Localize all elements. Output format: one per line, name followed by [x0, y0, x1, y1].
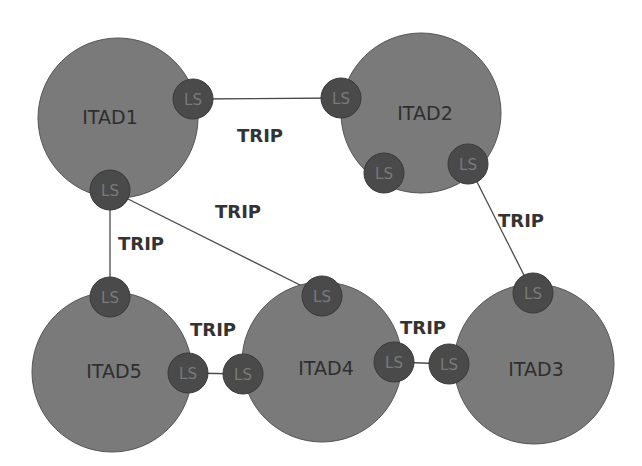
itad4-label: ITAD4: [298, 357, 353, 379]
trip-label-itad2-itad3: TRIP: [498, 210, 544, 231]
ls-node-itad4-right: LS: [374, 342, 414, 382]
ls-node-itad2-bottom-left: LS: [364, 153, 404, 193]
trip-label-itad1-itad4: TRIP: [215, 201, 261, 222]
ls-node-itad4-top: LS: [302, 276, 342, 316]
ls-label: LS: [440, 356, 458, 374]
ls-label: LS: [101, 289, 119, 307]
itad-trip-diagram: ITAD1 ITAD2 ITAD3 ITAD4 ITAD5 LS LS LS L…: [0, 0, 642, 466]
ls-label: LS: [234, 366, 252, 384]
ls-node-itad1-bottom: LS: [90, 170, 130, 210]
ls-label: LS: [332, 90, 350, 108]
ls-node-itad2-left: LS: [321, 78, 361, 118]
ls-label: LS: [375, 165, 393, 183]
itad5-label: ITAD5: [86, 360, 141, 382]
trip-label-itad4-itad3: TRIP: [400, 317, 446, 338]
itad1-label: ITAD1: [82, 106, 137, 128]
ls-label: LS: [385, 354, 403, 372]
ls-node-itad2-bottom-right: LS: [448, 144, 488, 184]
ls-node-itad1-right: LS: [173, 79, 213, 119]
ls-node-itad4-left: LS: [223, 354, 263, 394]
trip-label-itad5-itad4: TRIP: [190, 319, 236, 340]
trip-label-itad1-itad5: TRIP: [118, 233, 164, 254]
ls-label: LS: [524, 285, 542, 303]
itad3-label: ITAD3: [508, 358, 563, 380]
ls-node-itad3-top: LS: [513, 273, 553, 313]
ls-node-itad5-right: LS: [168, 353, 208, 393]
itad2-label: ITAD2: [397, 102, 452, 124]
link-itad1-itad2: [193, 98, 341, 99]
ls-label: LS: [101, 182, 119, 200]
ls-label: LS: [313, 288, 331, 306]
ls-label: LS: [179, 365, 197, 383]
ls-node-itad3-left: LS: [429, 344, 469, 384]
ls-label: LS: [184, 91, 202, 109]
ls-label: LS: [459, 156, 477, 174]
trip-label-itad1-itad2: TRIP: [237, 125, 283, 146]
ls-node-itad5-top: LS: [90, 277, 130, 317]
